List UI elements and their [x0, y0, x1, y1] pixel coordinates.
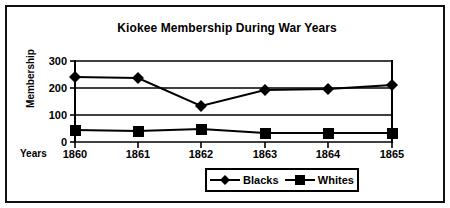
- x-tick-label-1865: 1865: [370, 148, 414, 160]
- series-blacks: [69, 71, 398, 112]
- series-blacks-point-1865: [386, 79, 398, 91]
- series-whites: [70, 124, 398, 139]
- series-whites-point-1865: [387, 128, 398, 139]
- chart-screenshot: Kiokee Membership During War Years Membe…: [0, 0, 450, 208]
- legend-marker-diamond-icon: [210, 174, 240, 186]
- series-blacks-line: [75, 77, 392, 106]
- chart-legend: Blacks Whites: [205, 168, 359, 192]
- x-tick-label-1862: 1862: [179, 148, 223, 160]
- legend-label-whites: Whites: [318, 174, 354, 186]
- series-blacks-point-1862: [195, 100, 207, 112]
- series-whites-point-1863: [260, 128, 271, 139]
- series-blacks-point-1860: [69, 71, 81, 83]
- legend-entry-whites: Whites: [285, 174, 354, 186]
- series-blacks-point-1861: [132, 72, 144, 84]
- legend-entry-blacks: Blacks: [210, 174, 278, 186]
- x-axis-title: Years: [20, 148, 47, 159]
- legend-label-blacks: Blacks: [243, 174, 278, 186]
- x-tick-label-1863: 1863: [243, 148, 287, 160]
- series-whites-point-1860: [70, 125, 81, 136]
- series-whites-point-1861: [133, 126, 144, 137]
- series-whites-point-1864: [323, 128, 334, 139]
- series-blacks-point-1863: [259, 84, 271, 96]
- x-tick-label-1860: 1860: [53, 148, 97, 160]
- series-blacks-point-1864: [322, 83, 334, 95]
- legend-marker-square-icon: [285, 174, 315, 186]
- x-tick-label-1864: 1864: [306, 148, 350, 160]
- figure-frame: Kiokee Membership During War Years Membe…: [5, 5, 445, 203]
- series-whites-point-1862: [196, 124, 207, 135]
- series-whites-line: [75, 129, 392, 133]
- x-tick-label-1861: 1861: [116, 148, 160, 160]
